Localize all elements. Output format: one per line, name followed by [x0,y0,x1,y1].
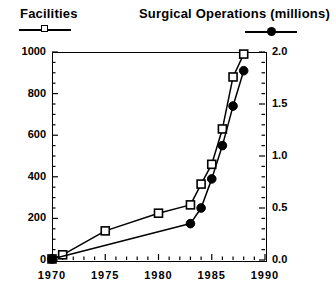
legend-title-facilities: Facilities [20,6,78,21]
y-left-tick-0: 0 [6,253,46,265]
legend-title-operations: Surgical Operations (millions) [139,6,330,21]
filled-circle-marker-icon [267,27,276,36]
y-right-tick-2-0: 2.0 [272,45,312,57]
legend-sample-facilities [19,24,71,36]
y-left-tick-800: 800 [6,87,46,99]
figure-caption-clipped [0,286,334,297]
plot-area [52,52,267,262]
x-tick-1985: 1985 [189,269,235,281]
y-left-tick-200: 200 [6,211,46,223]
y-right-tick-0-5: 0.5 [272,201,312,213]
open-square-marker-icon [41,25,48,32]
x-tick-1990: 1990 [242,269,288,281]
y-left-tick-400: 400 [6,170,46,182]
x-tick-1970: 1970 [29,269,75,281]
y-right-tick-0-0: 0.0 [272,253,312,265]
chart-figure: Facilities Surgical Operations (millions… [0,0,334,297]
x-tick-1975: 1975 [82,269,128,281]
x-tick-1980: 1980 [136,269,182,281]
legend-sample-operations [245,26,297,38]
y-left-tick-1000: 1000 [6,45,46,57]
y-right-tick-1-5: 1.5 [272,97,312,109]
y-right-tick-1-0: 1.0 [272,149,312,161]
y-left-tick-600: 600 [6,128,46,140]
